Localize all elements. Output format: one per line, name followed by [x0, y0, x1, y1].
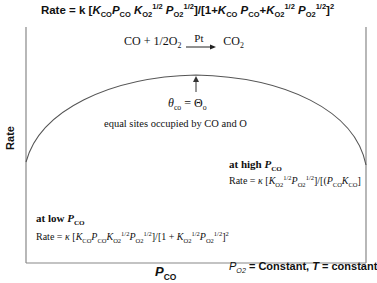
high-pco-heading: at high PCO	[229, 158, 282, 170]
rate-equation-title: Rate = k [KCOPCO KO21/2 PO21/2]/[1+KCO P…	[0, 4, 375, 16]
peak-arrow-head	[193, 76, 199, 82]
low-pco-heading: at low PCO	[36, 212, 85, 224]
reaction-equation: CO + 1/2O2 Pt CO2	[124, 34, 244, 49]
x-axis-label: PCO	[155, 264, 176, 279]
peak-condition: θco = Θo	[168, 96, 207, 111]
peak-description: equal sites occupied by CO and O	[104, 118, 247, 129]
y-axis-label: Rate	[4, 126, 16, 150]
catalyst-label: Pt	[194, 32, 203, 44]
high-pco-rate: Rate = κ [KO21/2PO21/2]/[(PCOKCO]	[229, 175, 361, 186]
low-pco-rate: Rate = κ [KCOPCOKO21/2PO21/2]/[1 + KO21/…	[36, 231, 229, 242]
conditions-label: PO2 = Constant, T = constant	[229, 260, 377, 272]
